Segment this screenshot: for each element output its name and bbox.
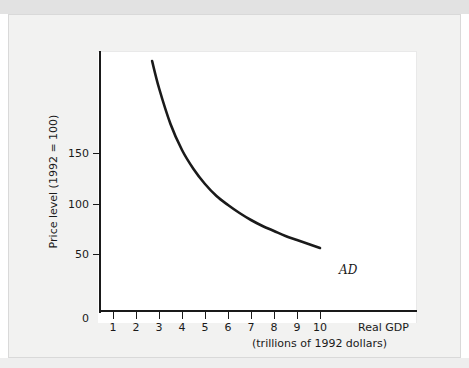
x-tick-7 [251,312,252,319]
x-ticklabel-1: 1 [103,321,123,334]
x-ticklabel-6: 6 [218,321,238,334]
y-ticklabel-100: 100 [61,198,89,211]
x-tick-1 [113,312,114,319]
y-tick-150 [93,153,100,154]
x-tick-8 [274,312,275,319]
x-axis-line [99,310,417,312]
x-tick-5 [205,312,206,319]
x-ticklabel-4: 4 [172,321,192,334]
x-ticklabel-9: 9 [287,321,307,334]
origin-label: 0 [75,312,89,325]
x-tick-9 [297,312,298,319]
aggregate-demand-figure: 150 100 50 0 1 2 3 4 5 6 7 8 9 10 Price … [0,0,469,368]
x-ticklabel-5: 5 [195,321,215,334]
x-axis-title-line2: (trillions of 1992 dollars) [252,337,387,350]
scan-band-top [0,0,469,14]
y-ticklabel-150: 150 [61,147,89,160]
x-axis-title-line1: Real GDP [358,321,409,334]
x-ticklabel-10: 10 [310,321,330,334]
x-tick-10 [320,312,321,319]
x-tick-4 [182,312,183,319]
y-tick-50 [93,254,100,255]
x-ticklabel-3: 3 [149,321,169,334]
x-tick-6 [228,312,229,319]
x-tick-2 [136,312,137,319]
x-ticklabel-8: 8 [264,321,284,334]
x-ticklabel-7: 7 [241,321,261,334]
x-ticklabel-2: 2 [126,321,146,334]
plot-panel [98,51,417,323]
y-axis-title: Price level (1992 = 100) [47,97,60,267]
scan-band-bottom [0,358,469,368]
y-axis-line [99,51,101,313]
x-tick-3 [159,312,160,319]
y-ticklabel-50: 50 [61,248,89,261]
ad-curve-label: AD [339,263,357,277]
y-tick-100 [93,204,100,205]
figure-mat: 150 100 50 0 1 2 3 4 5 6 7 8 9 10 Price … [8,14,461,358]
